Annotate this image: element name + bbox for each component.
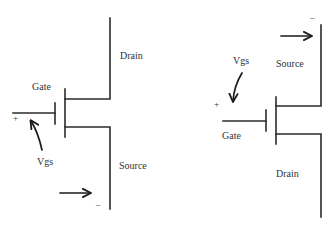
right-vgs-label: Vgs (233, 55, 249, 66)
left-minus-sign: – (95, 199, 101, 209)
right-gate-label: Gate (222, 130, 241, 141)
right-minus-sign: – (309, 12, 315, 22)
right-vgs-curved-arrow (233, 73, 242, 101)
left-plus-sign: + (13, 113, 18, 123)
left-drain-lead (65, 18, 110, 99)
left-vgs-curved-arrow (31, 121, 42, 150)
right-plus-sign: + (214, 99, 219, 109)
right-source-label: Source (276, 58, 304, 69)
left-vgs-label: Vgs (37, 156, 53, 167)
mosfet-diagram: Gate Drain Source Vgs + – Gate Drain Sou… (0, 0, 332, 226)
left-source-lead (65, 127, 110, 209)
right-transistor: Gate Drain Source Vgs + – (214, 12, 321, 217)
left-gate-label: Gate (32, 81, 51, 92)
left-drain-label: Drain (120, 50, 143, 61)
left-source-label: Source (119, 160, 147, 171)
left-transistor: Gate Drain Source Vgs + – (13, 18, 147, 209)
right-drain-label: Drain (276, 168, 299, 179)
